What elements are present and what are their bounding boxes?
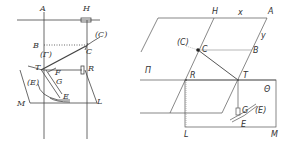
label-t: T bbox=[243, 71, 249, 80]
label-b: B bbox=[253, 46, 259, 55]
label-c-paren: (C) bbox=[177, 38, 189, 47]
point-c bbox=[196, 48, 200, 52]
point-r bbox=[185, 79, 187, 81]
label-l: L bbox=[184, 130, 188, 139]
label-theta: Θ bbox=[264, 85, 271, 94]
label-r: R bbox=[190, 71, 196, 80]
label-gamma: (Γ) bbox=[40, 50, 52, 59]
label-c: C bbox=[202, 45, 208, 54]
label-pi: Π bbox=[145, 66, 151, 75]
label-g: G bbox=[56, 77, 63, 86]
label-r: R bbox=[87, 64, 94, 73]
label-m: M bbox=[271, 130, 278, 139]
label-x: x bbox=[237, 8, 243, 17]
label-e-paren: (E) bbox=[27, 78, 39, 87]
label-a: A bbox=[267, 7, 273, 16]
line-ct bbox=[198, 50, 238, 80]
right-labels: H x A y (C) C B Π R T Θ G (E) E L M bbox=[145, 7, 278, 139]
label-g: G bbox=[242, 106, 248, 115]
label-e: E bbox=[62, 92, 69, 101]
label-h: H bbox=[82, 4, 91, 13]
label-h: H bbox=[212, 7, 218, 16]
label-f: F bbox=[54, 68, 61, 77]
label-t: T bbox=[35, 63, 41, 72]
label-e: E bbox=[241, 120, 247, 129]
label-b: B bbox=[32, 41, 39, 50]
label-y: y bbox=[260, 31, 266, 40]
label-c: C bbox=[86, 47, 92, 56]
label-e-paren: (E) bbox=[255, 106, 266, 115]
label-c-paren: (C) bbox=[95, 30, 107, 39]
g-marker bbox=[236, 108, 240, 115]
label-a: A bbox=[39, 4, 46, 13]
plane-pi-left-edge bbox=[141, 18, 158, 52]
plane-pi-outline bbox=[140, 18, 267, 113]
line-through-h bbox=[170, 18, 214, 113]
label-m: M bbox=[16, 99, 26, 108]
point-t bbox=[237, 79, 239, 81]
diagram-canvas: A H B C (C) (Γ) T R F G E (E) M L H x A bbox=[0, 0, 292, 145]
label-l: L bbox=[96, 97, 102, 106]
